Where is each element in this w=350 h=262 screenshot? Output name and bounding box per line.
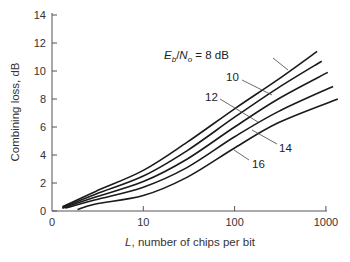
label-8db: Eb/No = 8 dB [164, 49, 229, 64]
y-tick-label: 12 [34, 37, 46, 49]
chart: 02468101214 0101001000 Combining loss, d… [0, 0, 350, 262]
leader-12db [220, 99, 258, 122]
label-14db: 14 [279, 142, 292, 154]
leader-14db [252, 130, 277, 144]
y-tick-label: 8 [40, 93, 46, 105]
y-tick-label: 6 [40, 121, 46, 133]
label-16db: 16 [252, 158, 265, 170]
leader-8db [273, 58, 288, 70]
x-tick-label: 1000 [314, 216, 338, 228]
x-tick-label: 0 [49, 216, 55, 228]
curve-10db [62, 61, 321, 207]
y-axis: 02468101214 [34, 9, 57, 217]
x-tick-label: 100 [225, 216, 243, 228]
y-tick-label: 2 [40, 177, 46, 189]
x-tick-label: 10 [137, 216, 149, 228]
y-tick-label: 10 [34, 65, 46, 77]
y-tick-label: 14 [34, 9, 46, 21]
label-10db: 10 [226, 71, 239, 83]
y-tick-label: 4 [40, 149, 46, 161]
y-tick-label: 0 [40, 205, 46, 217]
x-axis-title: L, number of chips per bit [125, 236, 256, 248]
x-axis: 0101001000 [49, 206, 338, 228]
x-axis-title-text: , number of chips per bit [132, 236, 256, 248]
curves [62, 51, 337, 209]
curve-8db [62, 51, 317, 206]
leader-16db [234, 150, 249, 160]
y-axis-title: Combining loss, dB [9, 62, 21, 161]
label-12db: 12 [205, 91, 218, 103]
